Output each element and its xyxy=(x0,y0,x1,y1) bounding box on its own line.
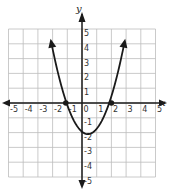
y-tick-label: 3 xyxy=(84,59,89,68)
x-tick-label: 0 xyxy=(84,105,89,114)
x-axis-left-arrow-icon xyxy=(2,100,10,107)
x-tick-label: -4 xyxy=(25,105,33,114)
x-intercept-point xyxy=(109,100,115,106)
coordinate-plane: -5-4-3-2-101234554321-1-2-3-4-5 y x xyxy=(0,0,171,190)
y-tick-label: -4 xyxy=(84,162,92,171)
y-tick-label: 1 xyxy=(84,88,89,97)
x-tick-label: -2 xyxy=(54,105,62,114)
x-tick-label: -5 xyxy=(10,105,18,114)
x-axis-label: x xyxy=(160,97,166,108)
y-tick-label: -5 xyxy=(84,177,92,186)
x-tick-label: 1 xyxy=(98,105,103,114)
y-tick-label: 5 xyxy=(84,29,89,38)
x-tick-label: 2 xyxy=(113,105,118,114)
y-tick-label: -1 xyxy=(84,118,92,127)
y-axis-label: y xyxy=(75,3,82,14)
x-tick-label: -3 xyxy=(39,105,47,114)
x-tick-label: 3 xyxy=(128,105,133,114)
x-intercept-point xyxy=(63,100,69,106)
y-tick-label: 2 xyxy=(84,73,89,82)
x-tick-label: 4 xyxy=(142,105,147,114)
y-tick-label: -3 xyxy=(84,147,92,156)
y-tick-label: 4 xyxy=(84,44,89,53)
